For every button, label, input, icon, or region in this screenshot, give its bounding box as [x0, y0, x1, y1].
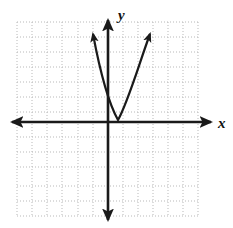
graph-canvas: y x [0, 0, 233, 228]
y-axis-label: y [116, 7, 125, 23]
coordinate-plane-figure: y x [0, 0, 233, 228]
x-axis-label: x [217, 115, 226, 131]
